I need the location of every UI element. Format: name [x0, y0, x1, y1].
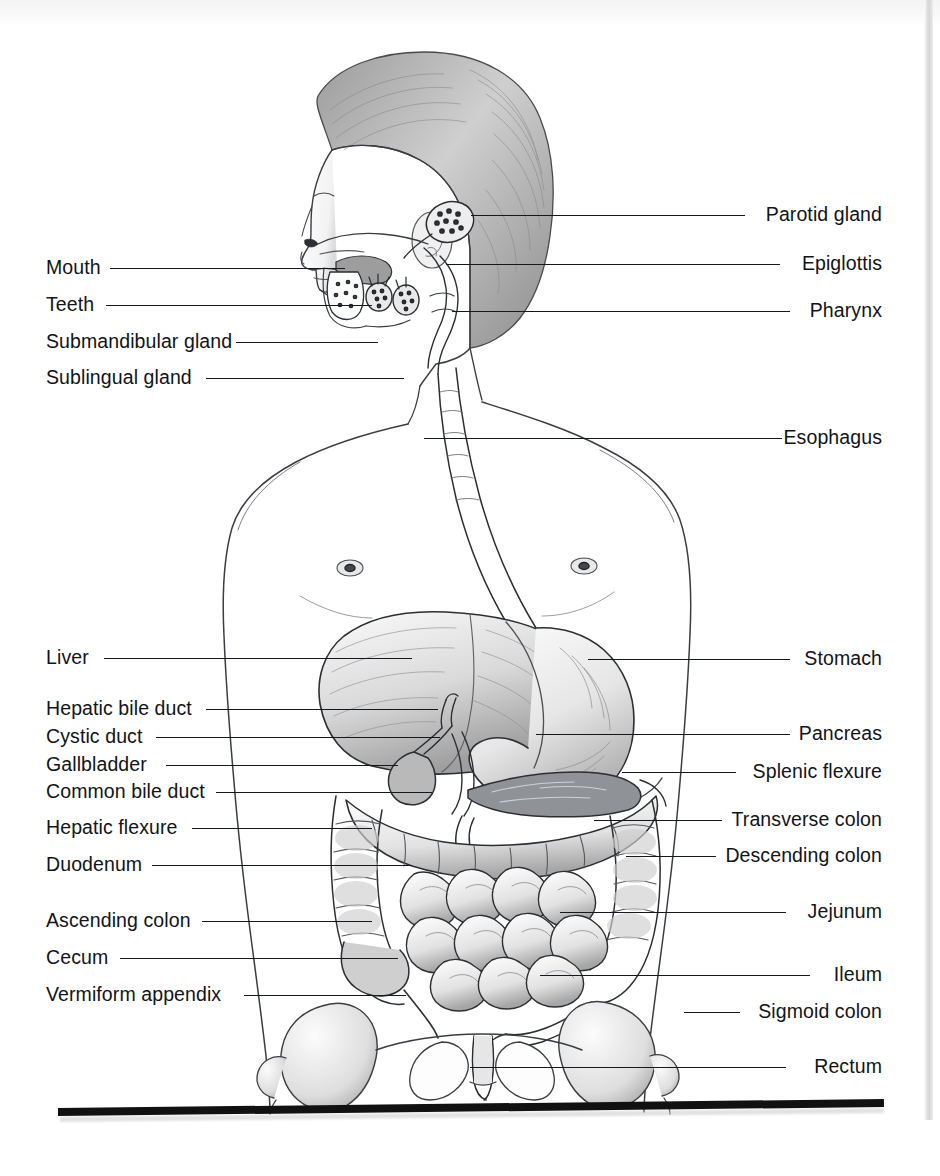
- leader-line-esophagus: [424, 438, 782, 439]
- label-mouth: Mouth: [46, 258, 101, 278]
- label-cecum: Cecum: [46, 948, 108, 968]
- label-jejunum: Jejunum: [808, 902, 882, 922]
- leader-line-mouth: [110, 268, 345, 269]
- leader-line-sublingual-gland: [206, 378, 404, 379]
- label-submandibular-gland: Submandibular gland: [46, 332, 232, 352]
- label-teeth: Teeth: [46, 295, 94, 315]
- scan-artifact-page-gutter: [924, 0, 933, 1120]
- leader-line-pancreas: [536, 734, 790, 735]
- leader-line-parotid-gland: [471, 215, 745, 216]
- label-stomach: Stomach: [804, 649, 882, 669]
- label-pancreas: Pancreas: [799, 724, 882, 744]
- leader-line-ileum: [540, 975, 810, 976]
- leader-line-submandibular-gland: [236, 342, 378, 343]
- leader-line-gallbladder: [166, 765, 398, 766]
- label-sublingual-gland: Sublingual gland: [46, 368, 192, 388]
- leader-line-jejunum: [560, 912, 786, 913]
- label-gallbladder: Gallbladder: [46, 755, 147, 775]
- figure-page: MouthTeethSubmandibular glandSublingual …: [0, 0, 940, 1176]
- label-rectum: Rectum: [814, 1057, 882, 1077]
- label-common-bile-duct: Common bile duct: [46, 782, 205, 802]
- leader-line-transverse-colon: [594, 820, 722, 821]
- label-pharynx: Pharynx: [810, 301, 882, 321]
- label-ileum: Ileum: [834, 965, 882, 985]
- leader-line-pharynx: [452, 311, 790, 312]
- label-hepatic-bile-duct: Hepatic bile duct: [46, 699, 192, 719]
- leader-line-hepatic-bile-duct: [206, 709, 438, 710]
- label-epiglottis: Epiglottis: [802, 254, 882, 274]
- label-descending-colon: Descending colon: [725, 846, 882, 866]
- leader-line-ascending-colon: [202, 921, 372, 922]
- label-ascending-colon: Ascending colon: [46, 911, 191, 931]
- label-liver: Liver: [46, 648, 89, 668]
- leader-line-liver: [104, 658, 412, 659]
- leader-line-hepatic-flexure: [192, 828, 372, 829]
- label-hepatic-flexure: Hepatic flexure: [46, 818, 178, 838]
- label-duodenum: Duodenum: [46, 855, 142, 875]
- leader-line-sigmoid-colon: [684, 1012, 740, 1013]
- label-vermiform-appendix: Vermiform appendix: [46, 985, 221, 1005]
- leader-line-common-bile-duct: [216, 792, 432, 793]
- label-sigmoid-colon: Sigmoid colon: [758, 1002, 882, 1022]
- leader-line-vermiform-appendix: [244, 995, 406, 996]
- leader-line-splenic-flexure: [622, 772, 736, 773]
- leader-line-cecum: [120, 958, 398, 959]
- leader-line-descending-colon: [626, 856, 716, 857]
- label-transverse-colon: Transverse colon: [732, 810, 882, 830]
- label-cystic-duct: Cystic duct: [46, 727, 142, 747]
- label-esophagus: Esophagus: [784, 428, 882, 448]
- leader-line-stomach: [588, 659, 790, 660]
- leader-line-duodenum: [152, 865, 412, 866]
- leader-line-teeth: [106, 305, 372, 306]
- leader-line-cystic-duct: [156, 737, 440, 738]
- leader-line-rectum: [470, 1067, 786, 1068]
- leader-line-epiglottis: [446, 264, 780, 265]
- label-parotid-gland: Parotid gland: [766, 205, 882, 225]
- label-splenic-flexure: Splenic flexure: [753, 762, 882, 782]
